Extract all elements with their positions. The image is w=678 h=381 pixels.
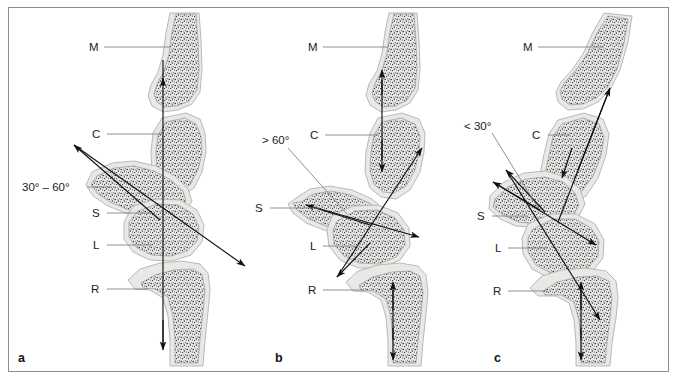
label-a-M: M <box>89 41 99 53</box>
bone-radius-b <box>346 263 428 366</box>
bone-metacarpal-c <box>556 13 632 110</box>
bone-radius-c <box>530 268 618 366</box>
label-b-angle: > 60° <box>262 134 289 146</box>
trabecular-lunate-b <box>333 210 405 264</box>
trabecular-metacarpal-a <box>154 14 199 107</box>
panel-c-bones <box>489 13 632 366</box>
label-b-R: R <box>308 284 316 296</box>
label-a-L: L <box>93 239 100 251</box>
label-a-C: C <box>92 128 100 140</box>
trabecular-lunate-c <box>528 219 599 274</box>
label-b-L: L <box>310 240 317 252</box>
bone-metacarpal-a <box>148 13 202 112</box>
panel-b-bones <box>288 13 428 366</box>
label-c-angle: < 30° <box>464 120 491 132</box>
bone-metacarpal-b <box>366 13 420 112</box>
label-c-S: S <box>477 210 485 222</box>
label-a-S: S <box>92 207 100 219</box>
trabecular-metacarpal-b <box>372 14 417 107</box>
bone-capitate-b <box>365 113 425 199</box>
label-b-M: M <box>308 41 318 53</box>
label-a-angle: 30° – 60° <box>22 181 70 193</box>
panel-a-bones <box>86 13 210 366</box>
panel-letter-c: c <box>494 351 501 365</box>
panel-letter-b: b <box>275 351 283 365</box>
label-c-M: M <box>523 41 533 53</box>
trabecular-lunate-a <box>129 204 199 256</box>
label-c-C: C <box>532 129 540 141</box>
panel-letter-a: a <box>18 351 26 365</box>
label-b-S: S <box>255 202 263 214</box>
bone-radius-a <box>128 261 210 366</box>
panel-a-graphic: M C 30° – 60° S L R a <box>0 0 678 381</box>
figure-root: M C 30° – 60° S L R a <box>0 0 678 381</box>
label-a-R: R <box>91 283 99 295</box>
label-c-L: L <box>495 242 502 254</box>
label-b-C: C <box>310 129 318 141</box>
label-c-R: R <box>493 285 501 297</box>
